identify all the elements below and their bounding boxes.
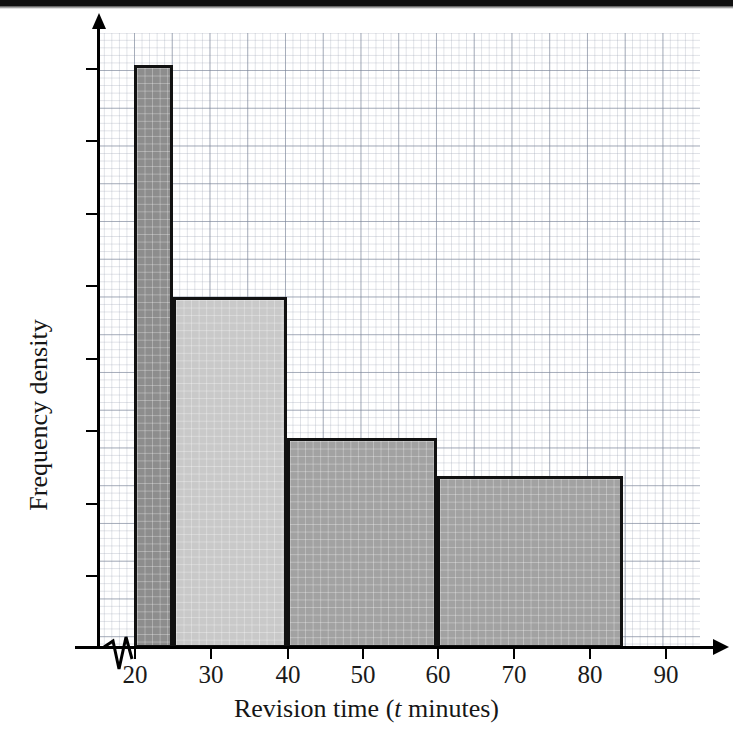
x-tick-label-30: 30 — [199, 661, 224, 689]
bar-3-texture — [290, 441, 434, 645]
y-axis-arrow-icon — [92, 13, 106, 29]
x-axis-title-pre: Revision time ( — [234, 694, 394, 723]
x-axis-tick — [210, 648, 212, 659]
x-tick-label-40: 40 — [276, 661, 301, 689]
y-axis-tick — [86, 575, 99, 577]
y-axis-tick — [86, 68, 99, 70]
axis-break-icon — [102, 633, 144, 679]
y-axis-tick — [86, 140, 99, 142]
x-axis-tick — [665, 648, 667, 659]
bar-4-texture — [440, 479, 620, 645]
x-axis-title: Revision time (t minutes) — [0, 694, 733, 724]
bar-2-texture — [176, 300, 284, 645]
x-tick-label-50: 50 — [351, 661, 376, 689]
bar-1-texture — [137, 68, 170, 645]
x-tick-label-80: 80 — [578, 661, 603, 689]
y-axis-title-container: Frequency density — [26, 100, 66, 540]
page-edge-shadow — [0, 6, 733, 9]
histogram-figure: 20 30 40 50 60 70 80 90 Revision time (t… — [0, 0, 733, 737]
x-axis-line — [75, 646, 715, 649]
y-axis-title: Frequency density — [24, 180, 54, 650]
x-axis-tick — [513, 648, 515, 659]
x-axis-title-variable: t — [394, 694, 401, 723]
y-axis-tick — [86, 430, 99, 432]
x-axis-title-post: minutes) — [402, 694, 500, 723]
x-axis-arrow-icon — [713, 639, 729, 655]
x-tick-label-70: 70 — [502, 661, 527, 689]
histogram-bar-3 — [287, 438, 437, 648]
x-axis-tick — [287, 648, 289, 659]
histogram-bar-2 — [173, 297, 287, 648]
x-axis-tick — [589, 648, 591, 659]
x-tick-label-60: 60 — [426, 661, 451, 689]
histogram-bar-1 — [134, 65, 173, 648]
histogram-bar-4 — [437, 476, 623, 648]
x-axis-tick — [362, 648, 364, 659]
x-axis-tick — [437, 648, 439, 659]
x-tick-label-90: 90 — [654, 661, 679, 689]
y-axis-line — [97, 25, 100, 648]
y-axis-tick — [86, 358, 99, 360]
y-axis-tick — [86, 213, 99, 215]
y-axis-tick — [86, 285, 99, 287]
y-axis-tick — [86, 503, 99, 505]
plot-area: 20 30 40 50 60 70 80 90 — [97, 33, 700, 648]
